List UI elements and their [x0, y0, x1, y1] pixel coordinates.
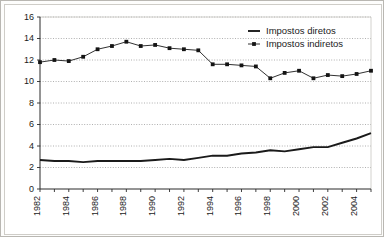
data-point-marker: [124, 40, 128, 44]
y-tick-label: 12: [24, 55, 34, 65]
data-point-marker: [153, 43, 157, 47]
data-point-marker: [67, 59, 71, 63]
y-tick-label: 2: [29, 162, 34, 172]
legend-label-1: Impostos indiretos: [266, 38, 343, 49]
chart-figure: 0246810121416198219841986198819901992199…: [0, 0, 384, 237]
data-point-marker: [355, 72, 359, 76]
x-tick-label: 1996: [233, 196, 243, 216]
y-tick-label: 14: [24, 33, 34, 43]
data-point-marker: [196, 48, 200, 52]
y-tick-label: 16: [24, 12, 34, 22]
x-tick-label: 1998: [262, 196, 272, 216]
data-point-marker: [225, 62, 229, 66]
legend-label-0: Impostos diretos: [266, 25, 336, 36]
x-tick-label: 1982: [32, 196, 42, 216]
legend-symbol-marker: [252, 42, 256, 46]
x-tick-label: 1990: [147, 196, 157, 216]
data-point-marker: [110, 44, 114, 48]
data-point-marker: [340, 74, 344, 78]
data-point-marker: [369, 69, 373, 73]
x-tick-label: 2002: [320, 196, 330, 216]
data-point-marker: [96, 47, 100, 51]
data-point-marker: [326, 73, 330, 77]
data-point-marker: [52, 58, 56, 62]
data-point-marker: [211, 62, 215, 66]
x-tick-label: 1992: [176, 196, 186, 216]
data-point-marker: [254, 65, 258, 69]
x-tick-label: 1984: [61, 196, 71, 216]
x-tick-label: 2004: [349, 196, 359, 216]
data-point-marker: [268, 76, 272, 80]
x-tick-label: 1986: [90, 196, 100, 216]
x-tick-label: 2000: [291, 196, 301, 216]
data-point-marker: [240, 63, 244, 67]
y-tick-label: 0: [29, 184, 34, 194]
y-tick-label: 6: [29, 119, 34, 129]
series-line-impostos-diretos: [40, 133, 371, 162]
line-chart: 0246810121416198219841986198819901992199…: [5, 5, 381, 234]
data-point-marker: [283, 71, 287, 75]
data-point-marker: [38, 60, 42, 64]
data-point-marker: [168, 46, 172, 50]
data-point-marker: [312, 76, 316, 80]
chart-frame: 0246810121416198219841986198819901992199…: [4, 4, 382, 235]
data-point-marker: [297, 69, 301, 73]
data-point-marker: [182, 47, 186, 51]
y-tick-label: 10: [24, 76, 34, 86]
x-tick-label: 1988: [118, 196, 128, 216]
data-point-marker: [81, 55, 85, 59]
data-point-marker: [139, 44, 143, 48]
y-tick-label: 8: [29, 98, 34, 108]
x-tick-label: 1994: [205, 196, 215, 216]
y-tick-label: 4: [29, 141, 34, 151]
